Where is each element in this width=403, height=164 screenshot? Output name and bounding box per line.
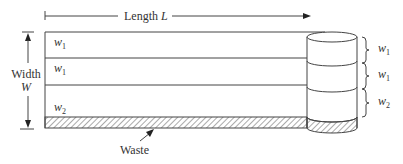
width-symbol: W: [21, 80, 32, 94]
length-label: Length L: [124, 9, 168, 23]
width-arrow-down-icon: [25, 120, 31, 128]
brace-2: [362, 63, 369, 89]
strip-label-2: w1: [54, 61, 66, 77]
length-dimension: Length L: [45, 9, 311, 23]
width-dimension: Width W: [11, 32, 41, 129]
roll-waste-band: [307, 117, 357, 133]
roll-label-3: w2: [378, 94, 390, 110]
roll-label-1: w1: [378, 41, 390, 57]
roll-cylinder: [307, 32, 357, 133]
roll-label-2: w1: [378, 67, 390, 83]
waste-strip: [45, 117, 307, 128]
stock-sheet: w1 w1 w2: [45, 32, 325, 128]
width-label: Width: [11, 67, 41, 81]
length-arrowhead-icon: [303, 13, 311, 19]
strip-label-3: w2: [54, 100, 66, 116]
waste-label: Waste: [120, 143, 149, 157]
brace-1: [362, 37, 369, 63]
cutting-stock-diagram: Length L Width W w1 w1 w2 Waste: [0, 0, 403, 164]
waste-annotation: Waste: [120, 129, 154, 157]
brace-3: [362, 89, 369, 117]
roll-braces: w1 w1 w2: [362, 37, 390, 117]
roll-top-ellipse: [307, 32, 357, 42]
strip-label-1: w1: [54, 35, 66, 51]
width-arrow-up-icon: [25, 33, 31, 41]
